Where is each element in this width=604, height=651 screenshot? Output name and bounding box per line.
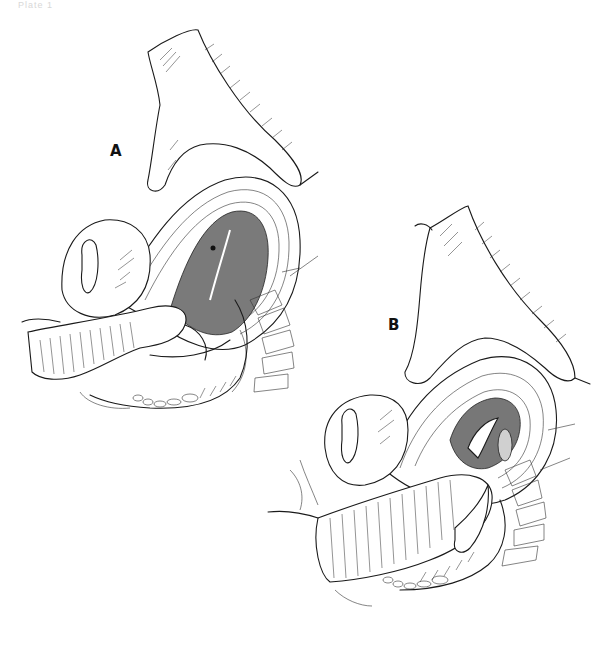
- panel-a-drawing: [22, 30, 318, 409]
- panel-b-drawing: [268, 206, 590, 606]
- panel-label-a: A: [110, 142, 122, 160]
- anatomical-illustration: [0, 0, 604, 651]
- panel-label-b: B: [388, 316, 399, 334]
